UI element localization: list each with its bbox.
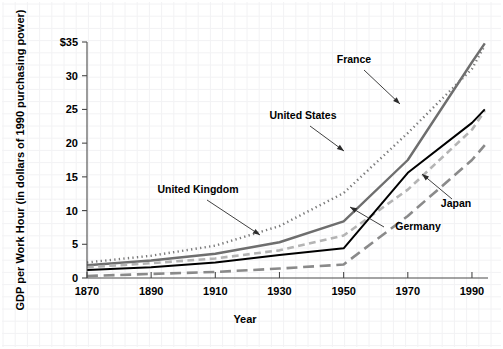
x-tick-label-1990: 1990 bbox=[460, 285, 484, 297]
y-tick-label-15: 15 bbox=[66, 171, 78, 183]
series-annotations: FranceUnited StatesUnited KingdomGermany… bbox=[157, 53, 471, 235]
y-tick-label-25: 25 bbox=[66, 103, 78, 115]
y-tick-label-0: 0 bbox=[72, 272, 78, 284]
leader-line-united-kingdom bbox=[207, 200, 260, 235]
x-tick-label-1950: 1950 bbox=[331, 285, 355, 297]
series-label-germany: Germany bbox=[395, 220, 441, 232]
series-label-japan: Japan bbox=[441, 197, 471, 209]
x-tick-label-1870: 1870 bbox=[75, 285, 99, 297]
x-tick-label-1930: 1930 bbox=[267, 285, 291, 297]
x-axis-tick-labels: 1870189019101930195019701990 bbox=[75, 285, 484, 297]
y-axis-tick-labels: 051015202530$35 bbox=[60, 36, 78, 284]
chart-figure: 051015202530$35 187018901910193019501970… bbox=[0, 0, 503, 349]
y-tick-label-20: 20 bbox=[66, 137, 78, 149]
series-label-united-kingdom: United Kingdom bbox=[157, 183, 238, 195]
series-label-france: France bbox=[337, 53, 372, 65]
y-tick-label-5: 5 bbox=[72, 238, 78, 250]
gdp-per-work-hour-line-chart: 051015202530$35 187018901910193019501970… bbox=[0, 0, 503, 349]
x-axis-title: Year bbox=[233, 313, 257, 325]
x-tick-label-1970: 1970 bbox=[396, 285, 420, 297]
x-tick-label-1890: 1890 bbox=[139, 285, 163, 297]
y-axis-title: GDP per Work Hour (in dollars of 1990 pu… bbox=[14, 9, 26, 310]
series-group bbox=[87, 43, 485, 276]
series-label-united-states: United States bbox=[269, 109, 336, 121]
y-tick-label-35: $35 bbox=[60, 36, 78, 48]
x-tick-label-1910: 1910 bbox=[203, 285, 227, 297]
y-tick-label-30: 30 bbox=[66, 70, 78, 82]
y-tick-label-10: 10 bbox=[66, 205, 78, 217]
